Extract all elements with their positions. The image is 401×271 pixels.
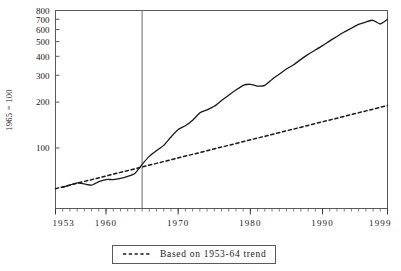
chart-series-layer [56,19,388,188]
chart-svg: 100200300400500600700800 195319601970198… [0,0,401,271]
y-tick-label: 800 [36,6,50,16]
y-axis-title: 1965 = 100 [4,89,14,131]
y-axis-tick-labels: 100200300400500600700800 [36,6,50,153]
chart-legend: Based on 1953-64 trend [112,245,276,264]
x-axis-tick-labels: 195319601970198019901999 [53,218,392,228]
y-tick-label: 100 [36,143,50,153]
series-line-trend [56,106,388,189]
y-tick-label: 200 [36,97,50,107]
x-tick-label: 1960 [95,218,117,228]
y-axis-ticks [56,11,60,148]
series-line-index [63,19,388,187]
x-tick-label: 1980 [239,218,261,228]
y-tick-label: 500 [36,37,50,47]
y-tick-label: 400 [36,52,50,62]
x-tick-label: 1953 [53,218,75,228]
x-tick-label: 1990 [311,218,333,228]
plot-frame [56,11,388,209]
legend-dash-swatch [122,250,152,258]
y-tick-label: 600 [36,25,50,35]
y-tick-label: 300 [36,71,50,81]
x-tick-label: 1999 [369,218,391,228]
chart-container: 100200300400500600700800 195319601970198… [0,0,401,271]
x-tick-label: 1970 [167,218,189,228]
y-tick-label: 700 [36,15,50,25]
legend-item-label: Based on 1953-64 trend [160,249,266,259]
